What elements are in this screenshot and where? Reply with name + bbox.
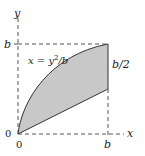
y-axis-label: y [13, 7, 21, 20]
origin-label-bottom: 0 [16, 139, 22, 150]
x-axis-label: x [127, 127, 134, 140]
curve-label: x = y2/b [28, 54, 68, 66]
curve-label-rhs: /b [58, 55, 69, 66]
y-tick-label-b: b [4, 38, 11, 51]
origin-label-left: 0 [5, 128, 11, 139]
area-diagram: y x b b 0 0 x = y2/b b/2 [0, 0, 145, 156]
segment-label-b-half: b/2 [112, 58, 130, 71]
x-tick-label-b: b [104, 138, 111, 151]
curve-label-lhs: x = y [28, 55, 54, 66]
